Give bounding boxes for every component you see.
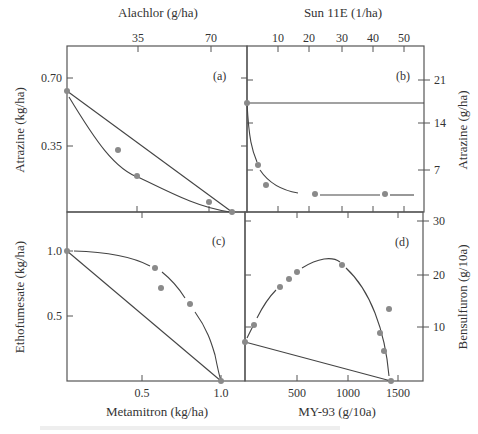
alachlor-axis-title: Alachlor (g/ha) <box>118 5 198 20</box>
faded-caption-strip <box>40 426 340 430</box>
panel-b-ticks: 10 20 30 40 50 21 14 7 <box>247 31 446 212</box>
panel-a-ticks: 35 70 0.70 0.35 <box>41 31 247 212</box>
c-xtick-05: 0.5 <box>135 386 150 400</box>
panel-c-ticks: 0.5 1.0 1.0 0.5 <box>47 212 229 400</box>
panel-d-curves <box>245 259 391 381</box>
bensulfuron-axis-title: Bensulfuron (g/10a) <box>455 244 470 349</box>
panel-c-curves <box>67 251 221 381</box>
panel-b-curves <box>247 103 424 195</box>
panel-d-label: (d) <box>395 235 409 249</box>
panel-d-ticks: 500 1000 1500 30 20 10 <box>245 212 445 400</box>
a-ytick-035: 0.35 <box>41 139 62 153</box>
figure-four-panel-isobolograms: Alachlor (g/ha) Sun 11E (1/ha) Atrazine … <box>0 0 478 434</box>
panel-c-label: (c) <box>212 234 225 248</box>
panel-b-label: (b) <box>396 69 410 83</box>
atrazine-kg-axis-title: Atrazine (kg/ha) <box>12 87 27 173</box>
a-xtick-35: 35 <box>132 31 144 45</box>
d-xtick-1500: 1500 <box>386 386 410 400</box>
panel-b-points <box>244 100 388 197</box>
atrazine-g-axis-title: Atrazine (g/ha) <box>455 90 470 169</box>
panel-a-label: (a) <box>213 69 226 83</box>
ethofumesate-axis-title: Ethofumesate (kg/ha) <box>12 241 27 353</box>
b-xtick-10: 10 <box>272 31 284 45</box>
c-ytick-05: 0.5 <box>47 309 62 323</box>
d-xtick-500: 500 <box>288 386 306 400</box>
metamitron-axis-title: Metamitron (kg/ha) <box>106 404 208 419</box>
c-xtick-10: 1.0 <box>214 386 229 400</box>
d-xtick-1000: 1000 <box>336 386 360 400</box>
c-ytick-10: 1.0 <box>47 244 62 258</box>
d-ytick-30: 30 <box>433 214 445 228</box>
b-xtick-50: 50 <box>398 31 410 45</box>
d-ytick-10: 10 <box>433 320 445 334</box>
b-xtick-20: 20 <box>303 31 315 45</box>
b-xtick-40: 40 <box>367 31 379 45</box>
b-ytick-14: 14 <box>434 116 446 130</box>
b-ytick-7: 7 <box>434 163 440 177</box>
d-ytick-20: 20 <box>433 268 445 282</box>
a-ytick-070: 0.70 <box>41 71 62 85</box>
b-xtick-30: 30 <box>336 31 348 45</box>
my93-axis-title: MY-93 (g/10a) <box>298 404 376 419</box>
panel-d-points <box>242 262 394 384</box>
sun11e-axis-title: Sun 11E (1/ha) <box>304 5 382 20</box>
panel-a-curves <box>67 91 232 212</box>
a-xtick-70: 70 <box>205 31 217 45</box>
b-ytick-21: 21 <box>434 73 446 87</box>
